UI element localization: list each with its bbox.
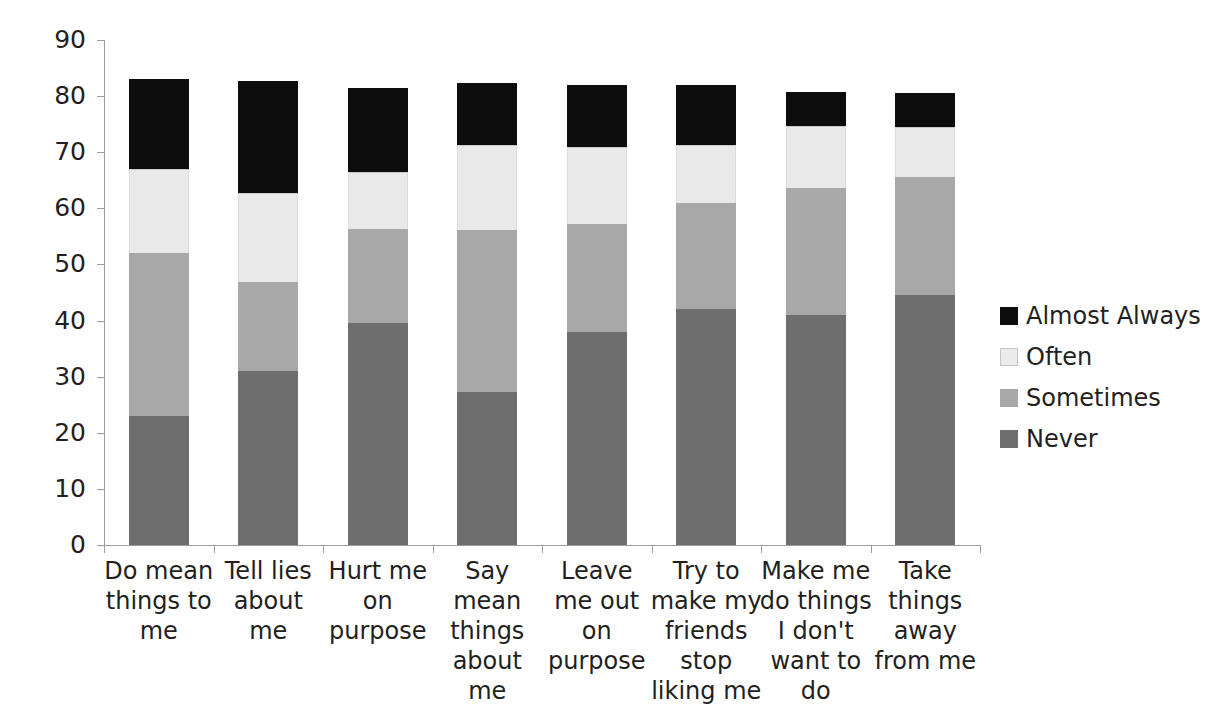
x-axis-category-label: Do mean things to me [103,556,215,646]
bar-segment-often[interactable] [129,169,189,253]
bar-column[interactable] [238,81,298,545]
bar-segment-almost-always[interactable] [348,88,408,172]
bar-segment-never[interactable] [129,416,189,545]
y-axis-tick-labels: 9080706050403020100 [0,40,86,545]
y-tick-label: 70 [54,139,86,164]
bar-segment-almost-always[interactable] [567,85,627,147]
x-tick-mark [761,545,762,553]
legend-item[interactable]: Never [1000,418,1215,459]
y-tick-mark [97,321,104,322]
y-tick-mark [97,489,104,490]
x-axis-category-label: Hurt me on purpose [322,556,434,646]
legend-item[interactable]: Often [1000,336,1215,377]
bar-segment-almost-always[interactable] [786,92,846,126]
bar-segment-never[interactable] [786,315,846,545]
bar-segment-never[interactable] [895,295,955,545]
bars-layer [104,40,980,545]
bar-segment-often[interactable] [457,145,517,230]
bar-segment-often[interactable] [895,127,955,178]
legend-item-label: Never [1026,426,1098,452]
bar-segment-never[interactable] [567,332,627,545]
bar-segment-almost-always[interactable] [895,93,955,127]
bar-segment-often[interactable] [676,145,736,203]
y-tick-label: 60 [54,195,86,220]
bar-column[interactable] [348,88,408,545]
y-tick-mark [97,152,104,153]
x-axis-category-label: Say mean things about me [431,556,543,706]
bar-segment-almost-always[interactable] [457,83,517,145]
y-tick-label: 50 [54,251,86,276]
y-tick-label: 30 [54,364,86,389]
x-tick-mark [980,545,981,553]
bar-segment-sometimes[interactable] [895,177,955,295]
legend-item[interactable]: Almost Always [1000,295,1215,336]
legend-item-label: Sometimes [1026,385,1161,411]
bar-segment-sometimes[interactable] [457,230,517,392]
bar-segment-sometimes[interactable] [348,229,408,323]
bar-segment-sometimes[interactable] [129,253,189,416]
bar-column[interactable] [457,83,517,545]
bar-segment-often[interactable] [238,193,298,283]
legend-swatch-almost-always-icon [1000,307,1018,325]
chart-legend: Almost AlwaysOftenSometimesNever [1000,295,1215,459]
bar-segment-sometimes[interactable] [238,282,298,371]
legend-item-label: Almost Always [1026,303,1201,329]
bar-segment-never[interactable] [238,371,298,545]
y-tick-label: 0 [70,532,86,557]
x-axis-category-label: Take things away from me [869,556,981,676]
x-tick-mark [542,545,543,553]
x-tick-mark [323,545,324,553]
stacked-bar-chart: 9080706050403020100 Do mean things to me… [0,0,1223,712]
category-labels: Do mean things to meTell lies about meHu… [104,556,980,696]
bar-column[interactable] [786,92,846,545]
y-tick-mark [97,208,104,209]
x-tick-mark [433,545,434,553]
x-tick-mark [871,545,872,553]
bar-segment-often[interactable] [567,147,627,224]
y-tick-label: 40 [54,308,86,333]
legend-item-label: Often [1026,344,1092,370]
y-tick-label: 20 [54,420,86,445]
bar-segment-often[interactable] [786,126,846,188]
bar-column[interactable] [895,93,955,545]
bar-segment-almost-always[interactable] [129,79,189,169]
bar-segment-almost-always[interactable] [676,85,736,144]
x-axis-category-label: Tell lies about me [212,556,324,646]
y-tick-mark [97,377,104,378]
bar-column[interactable] [567,85,627,545]
x-axis-category-label: Try to make my friends stop liking me [650,556,762,706]
legend-swatch-often-icon [1000,348,1018,366]
y-tick-mark [97,433,104,434]
bar-column[interactable] [129,79,189,545]
bar-segment-sometimes[interactable] [786,188,846,315]
y-tick-label: 80 [54,83,86,108]
bar-column[interactable] [676,85,736,545]
y-tick-mark [97,264,104,265]
bar-segment-never[interactable] [348,323,408,545]
y-tick-label: 90 [54,27,86,52]
y-tick-label: 10 [54,476,86,501]
legend-swatch-never-icon [1000,430,1018,448]
bar-segment-almost-always[interactable] [238,81,298,193]
x-tick-mark [652,545,653,553]
legend-swatch-sometimes-icon [1000,389,1018,407]
x-tick-mark [104,545,105,553]
y-tick-mark [97,545,104,546]
bar-segment-often[interactable] [348,172,408,229]
bar-segment-never[interactable] [457,392,517,545]
x-tick-mark [214,545,215,553]
x-axis-category-label: Make me do things I don't want to do [760,556,872,706]
legend-item[interactable]: Sometimes [1000,377,1215,418]
y-tick-mark [97,96,104,97]
bar-segment-sometimes[interactable] [567,224,627,332]
bar-segment-sometimes[interactable] [676,203,736,310]
y-tick-mark [97,40,104,41]
x-axis-category-label: Leave me out on purpose [541,556,653,676]
bar-segment-never[interactable] [676,309,736,545]
